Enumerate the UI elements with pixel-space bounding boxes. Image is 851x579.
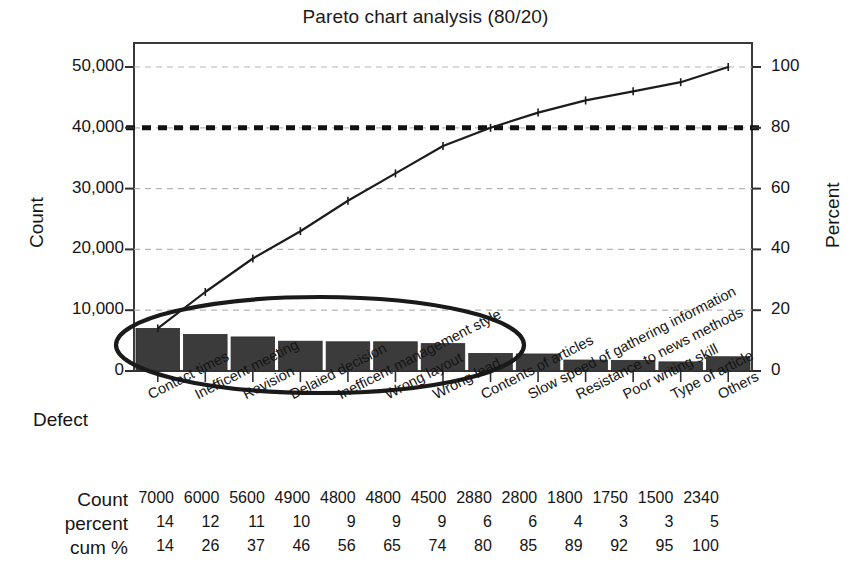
- table-row-label: cum %: [0, 537, 128, 559]
- table-cell: 6000: [179, 489, 219, 507]
- table-cell: 6: [452, 513, 492, 531]
- table-cell: 4500: [406, 489, 446, 507]
- table-cell: 95: [633, 537, 673, 555]
- table-cell: 12: [179, 513, 219, 531]
- table-cell: 11: [225, 513, 265, 531]
- table-cell: 4800: [361, 489, 401, 507]
- table-cell: 26: [179, 537, 219, 555]
- table-cell: 9: [406, 513, 446, 531]
- table-cell: 2880: [452, 489, 492, 507]
- table-cell: 14: [134, 513, 174, 531]
- table-cell: 1800: [543, 489, 583, 507]
- table-cell: 5: [679, 513, 719, 531]
- table-cell: 2800: [497, 489, 537, 507]
- table-cell: 6: [497, 513, 537, 531]
- table-cell: 37: [225, 537, 265, 555]
- table-cell: 4: [543, 513, 583, 531]
- table-row: cum %142637465665748085899295100: [0, 537, 851, 561]
- table-cell: 100: [679, 537, 719, 555]
- table-cell: 74: [406, 537, 446, 555]
- table-cell: 65: [361, 537, 401, 555]
- table-row-label: percent: [0, 513, 128, 535]
- table-cell: 1750: [588, 489, 628, 507]
- table-cell: 4900: [270, 489, 310, 507]
- data-table: Count70006000560049004800480045002880280…: [0, 489, 851, 561]
- table-cell: 9: [361, 513, 401, 531]
- table-cell: 89: [543, 537, 583, 555]
- table-row: Count70006000560049004800480045002880280…: [0, 489, 851, 513]
- table-cell: 56: [316, 537, 356, 555]
- table-row-label: Count: [0, 489, 128, 511]
- table-cell: 85: [497, 537, 537, 555]
- table-cell: 92: [588, 537, 628, 555]
- table-cell: 46: [270, 537, 310, 555]
- table-cell: 3: [588, 513, 628, 531]
- table-cell: 3: [633, 513, 673, 531]
- table-cell: 9: [316, 513, 356, 531]
- table-cell: 10: [270, 513, 310, 531]
- table-cell: 80: [452, 537, 492, 555]
- table-cell: 14: [134, 537, 174, 555]
- table-cell: 4800: [316, 489, 356, 507]
- table-cell: 2340: [679, 489, 719, 507]
- table-cell: 1500: [633, 489, 673, 507]
- table-cell: 5600: [225, 489, 265, 507]
- table-row: percent14121110999664335: [0, 513, 851, 537]
- table-cell: 7000: [134, 489, 174, 507]
- pareto-chart-page: Pareto chart analysis (80/20) 010,00020,…: [0, 0, 851, 579]
